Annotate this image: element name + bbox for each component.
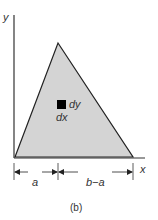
differential-element (57, 100, 66, 109)
dim-label-b-minus-a: b−a (86, 176, 105, 188)
x-axis-label: x (139, 163, 146, 175)
y-axis-label: y (2, 11, 10, 23)
dim-label-a: a (32, 176, 38, 188)
figure-caption: (b) (70, 202, 82, 213)
dx-label: dx (56, 111, 68, 123)
dy-label: dy (69, 98, 82, 110)
diagram: y x dy dx a b−a (b) (0, 0, 158, 220)
